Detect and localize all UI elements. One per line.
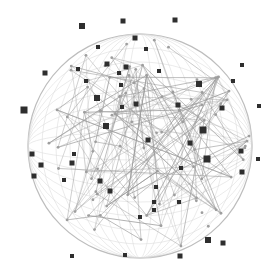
node-square — [84, 79, 88, 83]
node-square — [21, 107, 28, 114]
node-square — [123, 253, 127, 257]
node-square — [240, 170, 245, 175]
node-square — [152, 200, 156, 204]
node-square — [200, 127, 207, 134]
node-square — [154, 185, 158, 189]
node-square — [173, 18, 178, 23]
node-square — [98, 179, 103, 184]
node-square — [105, 62, 110, 67]
node-square — [146, 138, 151, 143]
node-square — [152, 208, 156, 212]
node-square — [221, 241, 226, 246]
node-square — [179, 166, 183, 170]
node-square — [39, 163, 44, 168]
node-square — [94, 95, 100, 101]
node-square — [32, 174, 37, 179]
node-square — [124, 65, 129, 70]
node-square — [196, 81, 202, 87]
node-square — [30, 152, 35, 157]
node-square — [108, 189, 113, 194]
node-square — [121, 19, 126, 24]
node-square — [239, 149, 244, 154]
network-sphere-illustration — [0, 0, 279, 276]
node-square — [177, 200, 181, 204]
node-square — [220, 106, 225, 111]
node-square — [176, 103, 181, 108]
node-square — [96, 45, 100, 49]
node-square — [70, 254, 74, 258]
node-square — [119, 83, 123, 87]
node-square — [188, 141, 193, 146]
node-square — [72, 152, 76, 156]
node-square — [62, 178, 66, 182]
node-square — [231, 79, 235, 83]
node-square — [157, 69, 161, 73]
node-square — [120, 105, 124, 109]
node-square — [103, 123, 109, 129]
node-square — [79, 23, 85, 29]
node-square — [43, 71, 48, 76]
node-square — [256, 157, 260, 161]
node-square — [117, 71, 121, 75]
node-square — [240, 63, 244, 67]
node-square — [70, 161, 75, 166]
node-square — [138, 215, 142, 219]
node-square — [133, 36, 138, 41]
node-square — [257, 104, 261, 108]
node-square — [144, 47, 148, 51]
node-square — [178, 254, 183, 259]
node-square — [134, 102, 139, 107]
node-square — [76, 67, 80, 71]
node-square — [205, 237, 211, 243]
node-square — [204, 156, 211, 163]
